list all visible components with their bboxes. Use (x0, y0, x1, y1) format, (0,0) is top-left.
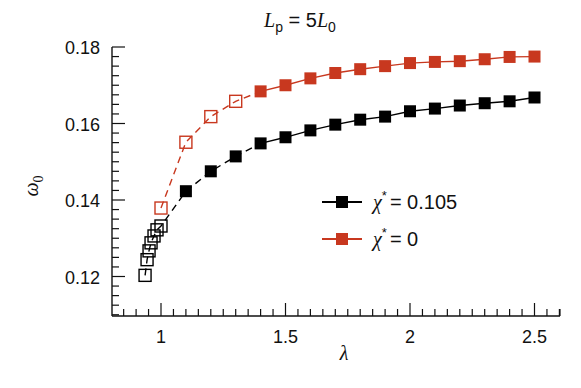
filled-square-marker (429, 56, 441, 68)
y-tick-label: 0.18 (65, 38, 100, 58)
legend: χ*= 0.105 χ*= 0 (322, 188, 457, 251)
filled-square-marker (479, 97, 491, 109)
filled-square-marker (454, 55, 466, 67)
legend-marker-black (336, 196, 348, 208)
x-axis-label: λ (339, 342, 349, 364)
filled-square-marker (329, 119, 341, 131)
series-1 (155, 51, 541, 214)
filled-square-marker (404, 57, 416, 69)
legend-item-chi-0105: χ*= 0.105 (322, 188, 457, 214)
legend-label-chi-0: χ*= 0 (371, 225, 418, 251)
filled-square-marker (454, 100, 466, 112)
filled-square-marker (479, 53, 491, 65)
series-solid-line (261, 57, 535, 92)
filled-square-marker (504, 95, 516, 107)
x-tick-label: 2.5 (522, 327, 547, 347)
filled-square-marker (230, 150, 242, 162)
x-tick-label: 1.5 (273, 327, 298, 347)
chart-title: Lp = 5L0 (263, 9, 336, 35)
filled-square-marker (404, 105, 416, 117)
filled-square-marker (280, 79, 292, 91)
legend-label-chi-0105: χ*= 0.105 (371, 188, 457, 214)
filled-square-marker (180, 185, 192, 197)
filled-square-marker (354, 114, 366, 126)
y-tick-label: 0.12 (65, 268, 100, 288)
filled-square-marker (280, 131, 292, 143)
filled-square-marker (255, 137, 267, 149)
filled-square-marker (529, 51, 541, 63)
series-0 (139, 91, 540, 281)
y-axis-label: ω0 (20, 175, 46, 196)
plot-area: 11.522.50.120.140.160.18 Lp = 5L0 λ ω0 χ… (0, 0, 581, 388)
filled-square-marker (329, 67, 341, 79)
filled-square-marker (504, 51, 516, 63)
series-dashed-line (161, 91, 261, 208)
series-layer (139, 51, 540, 282)
open-square-marker (155, 202, 167, 214)
x-tick-label: 2 (405, 327, 415, 347)
filled-square-marker (529, 91, 541, 103)
filled-square-marker (304, 72, 316, 84)
filled-square-marker (304, 124, 316, 136)
svg-text:ω0: ω0 (20, 175, 46, 196)
filled-square-marker (205, 165, 217, 177)
series-solid-line (261, 98, 535, 144)
filled-square-marker (379, 60, 391, 72)
filled-square-marker (255, 85, 267, 97)
y-tick-label: 0.16 (65, 115, 100, 135)
filled-square-marker (354, 63, 366, 75)
chart: 11.522.50.120.140.160.18 Lp = 5L0 λ ω0 χ… (0, 0, 581, 388)
legend-marker-red (336, 233, 348, 245)
filled-square-marker (429, 103, 441, 115)
y-tick-label: 0.14 (65, 191, 100, 211)
x-tick-label: 1 (156, 327, 166, 347)
series-dashed-line (145, 143, 261, 275)
legend-item-chi-0: χ*= 0 (322, 225, 418, 251)
filled-square-marker (379, 111, 391, 123)
